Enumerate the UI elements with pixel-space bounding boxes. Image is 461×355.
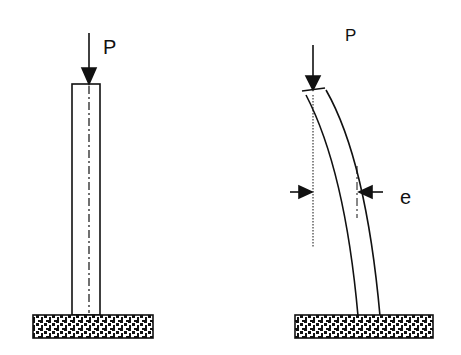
load-label-right: P [345, 26, 356, 46]
footing [295, 315, 433, 338]
load-label-left: P [103, 36, 116, 59]
column-diagram [0, 0, 461, 355]
load-arrow-icon [306, 76, 320, 90]
eccentricity-arrow-icon [299, 186, 312, 198]
deflected-column [290, 45, 433, 338]
footing [33, 315, 153, 338]
load-arrow-icon [82, 68, 96, 84]
eccentricity-label: e [400, 186, 411, 209]
straight-column [33, 33, 153, 338]
